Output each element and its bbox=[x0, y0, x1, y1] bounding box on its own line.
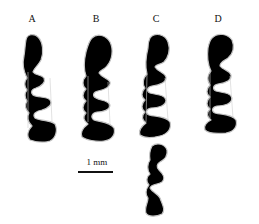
specimen-b bbox=[81, 35, 114, 141]
specimen-c-lower bbox=[145, 144, 167, 216]
scale-bar-label: 1 mm bbox=[87, 158, 108, 167]
specimen-drawings bbox=[0, 0, 259, 224]
specimen-d bbox=[204, 34, 236, 133]
guide-lines bbox=[28, 70, 233, 128]
scale-bar bbox=[78, 171, 113, 173]
